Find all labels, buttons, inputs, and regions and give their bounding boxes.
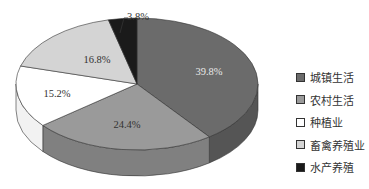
legend-swatch <box>296 95 305 104</box>
legend-item: 农村生活 <box>296 89 365 112</box>
legend-swatch <box>296 163 305 172</box>
legend-item: 畜禽养殖业 <box>296 134 365 157</box>
legend-item: 城镇生活 <box>296 66 365 89</box>
legend-item: 水产养殖 <box>296 156 365 179</box>
legend-label: 农村生活 <box>310 92 354 108</box>
legend-swatch <box>296 140 305 149</box>
legend-item: 种植业 <box>296 111 365 134</box>
legend-swatch <box>296 118 305 127</box>
legend-label: 水产养殖 <box>310 159 354 175</box>
slice-label: 24.4% <box>113 119 140 130</box>
legend: 城镇生活 农村生活 种植业 畜禽养殖业 水产养殖 <box>296 66 365 179</box>
slice-label: 16.8% <box>83 54 110 65</box>
slice-label: 15.2% <box>43 88 70 99</box>
slice-label: 3.8% <box>127 11 149 22</box>
legend-label: 城镇生活 <box>310 69 354 85</box>
slice-label: 39.8% <box>195 66 222 77</box>
legend-label: 种植业 <box>310 114 343 130</box>
legend-swatch <box>296 73 305 82</box>
legend-label: 畜禽养殖业 <box>310 137 365 153</box>
